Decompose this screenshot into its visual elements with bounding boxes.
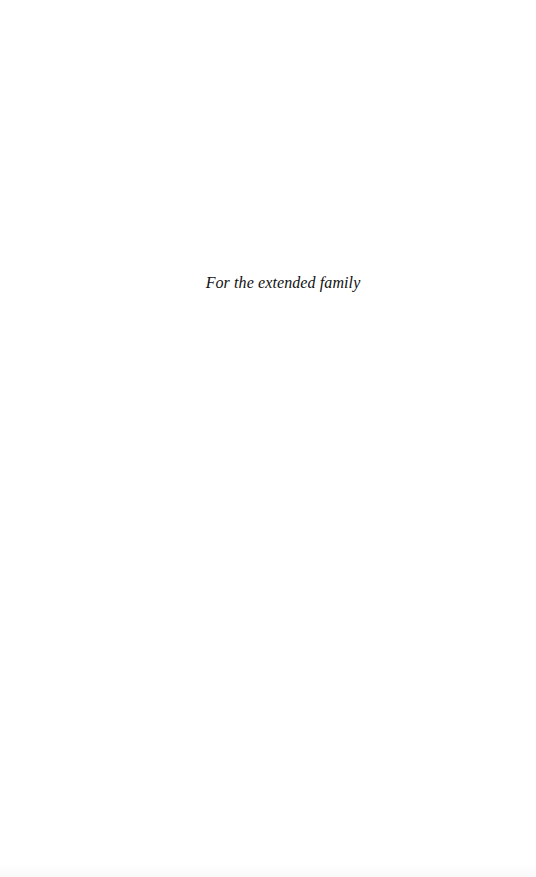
- dedication-page: For the extended family: [0, 0, 536, 877]
- scan-edge-shading: [0, 863, 536, 877]
- dedication-text: For the extended family: [0, 273, 536, 293]
